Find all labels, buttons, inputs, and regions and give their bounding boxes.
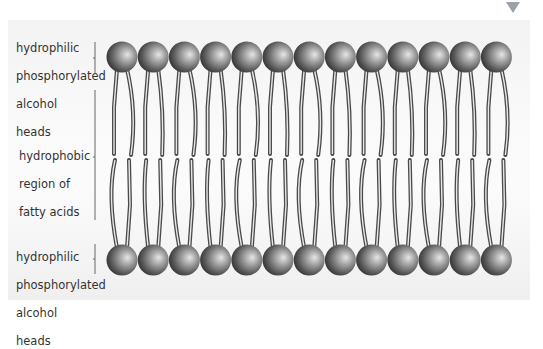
head-sphere [294, 245, 325, 276]
head-sphere [263, 42, 294, 73]
bracket-middle [93, 90, 95, 220]
bracket-bottom [93, 244, 95, 274]
head-sphere [107, 245, 138, 276]
head-sphere [138, 42, 169, 73]
head-sphere [387, 42, 418, 73]
head-sphere [450, 245, 481, 276]
phospholipid-heads [107, 42, 512, 276]
head-sphere [169, 245, 200, 276]
head-sphere [231, 42, 262, 73]
fatty-acid-tails [111, 69, 507, 248]
label-line: heads [16, 334, 106, 348]
head-sphere [450, 42, 481, 73]
head-sphere [138, 245, 169, 276]
head-sphere [419, 42, 450, 73]
head-sphere [325, 42, 356, 73]
label-line: alcohol [16, 306, 106, 320]
head-sphere [481, 42, 512, 73]
head-sphere [356, 42, 387, 73]
head-sphere [200, 42, 231, 73]
head-sphere [481, 245, 512, 276]
head-sphere [200, 245, 231, 276]
head-sphere [231, 245, 262, 276]
head-sphere [356, 245, 387, 276]
head-sphere [169, 42, 200, 73]
head-sphere [419, 245, 450, 276]
head-sphere [263, 245, 294, 276]
head-sphere [387, 245, 418, 276]
bracket-top [93, 42, 95, 74]
head-sphere [294, 42, 325, 73]
head-sphere [325, 245, 356, 276]
brackets [93, 42, 95, 274]
head-sphere [107, 42, 138, 73]
